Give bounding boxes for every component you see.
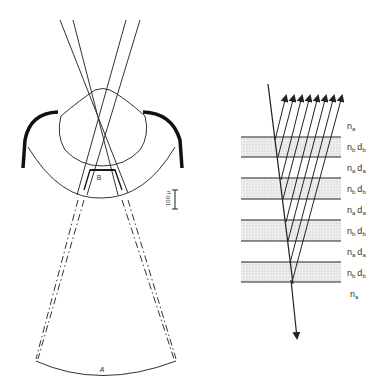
svg-text:nbdb: nbdb — [347, 184, 366, 195]
transmitted-ray — [291, 280, 297, 338]
ray — [87, 20, 140, 195]
projection-line — [122, 200, 174, 359]
projection-line — [128, 200, 176, 359]
scale-bar — [172, 190, 178, 209]
svg-text:nbdb: nbdb — [347, 142, 366, 153]
arc-a — [36, 361, 176, 376]
svg-text:nada: nada — [347, 247, 366, 258]
projection-line — [38, 200, 84, 359]
layer-labels: na nbdb nada nbdb nada nbdb nada nbdb na — [347, 121, 366, 300]
optics-figure: B A 100 μ na n — [0, 0, 382, 385]
inner-cup — [59, 89, 146, 167]
outer-arc — [28, 147, 175, 198]
svg-text:na: na — [350, 289, 359, 300]
projection-line — [36, 200, 78, 359]
label-a: A — [99, 366, 105, 373]
layer-b-2 — [241, 178, 341, 199]
label-b: B — [97, 174, 102, 181]
svg-text:nada: nada — [347, 205, 366, 216]
eye-lens-diagram — [23, 20, 182, 376]
left-thick-arc — [23, 112, 58, 168]
svg-text:nbdb: nbdb — [347, 268, 366, 279]
right-thick-arc — [143, 112, 182, 168]
svg-text:na: na — [347, 121, 356, 132]
multilayer-reflection-diagram — [241, 84, 342, 338]
ray — [60, 20, 128, 193]
reflected-ray — [288, 96, 326, 241]
svg-text:nbdb: nbdb — [347, 226, 366, 237]
ray — [73, 20, 118, 195]
svg-text:nada: nada — [347, 163, 366, 174]
scale-bar-label: 100 μ — [165, 190, 171, 206]
